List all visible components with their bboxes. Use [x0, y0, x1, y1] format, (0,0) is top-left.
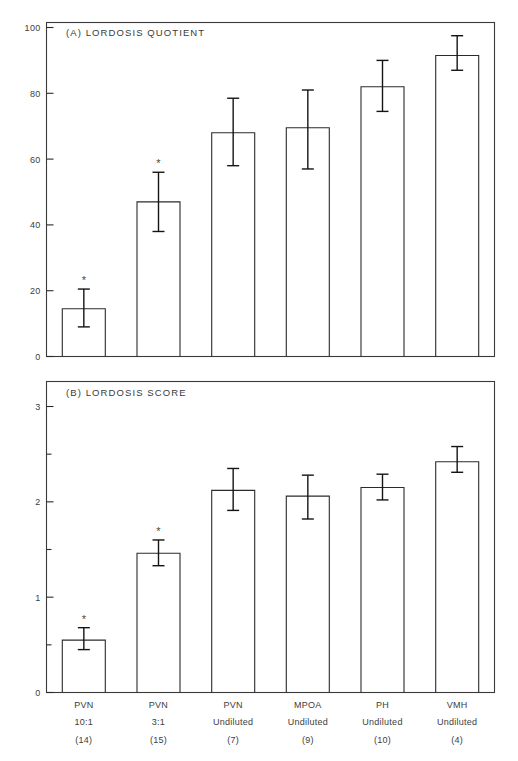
y-tick-label: 1: [35, 593, 40, 603]
x-label-site: MPOA: [294, 700, 322, 710]
significance-marker: *: [156, 157, 161, 169]
y-tick-label: 40: [30, 220, 41, 230]
x-label-n: (15): [150, 735, 167, 745]
x-label-site: PH: [376, 700, 389, 710]
panel-a-yaxis: 020406080100: [25, 23, 54, 362]
x-label-dilution: Undiluted: [437, 717, 477, 727]
x-label-site: VMH: [447, 700, 468, 710]
x-label-site: PVN: [149, 700, 168, 710]
significance-marker: *: [82, 274, 87, 286]
bar: [286, 496, 329, 692]
panel-b: (B) LORDOSIS SCORE 0123 **: [35, 382, 494, 698]
y-tick-label: 20: [30, 286, 41, 296]
x-axis-labels: PVN10:1(14)PVN3:1(15)PVNUndiluted(7)MPOA…: [74, 700, 477, 745]
y-tick-label: 0: [35, 688, 40, 698]
panel-a-bars: **: [62, 36, 478, 357]
significance-marker: *: [156, 525, 161, 537]
x-label-site: PVN: [74, 700, 93, 710]
x-label-n: (10): [374, 735, 391, 745]
bar: [436, 462, 479, 693]
bar: [137, 553, 180, 692]
x-label-site: PVN: [224, 700, 243, 710]
x-label-n: (9): [302, 735, 314, 745]
panel-a-title: (A) LORDOSIS QUOTIENT: [66, 27, 205, 38]
two-panel-bar-figure: (A) LORDOSIS QUOTIENT 020406080100 ** (B…: [0, 0, 518, 761]
x-label-n: (4): [451, 735, 463, 745]
bar: [436, 56, 479, 357]
y-tick-label: 2: [35, 497, 40, 507]
panel-b-bars: **: [62, 447, 478, 693]
x-label-dilution: Undiluted: [288, 717, 328, 727]
y-tick-label: 80: [30, 89, 41, 99]
panel-a: (A) LORDOSIS QUOTIENT 020406080100 **: [25, 23, 495, 362]
panel-b-yaxis: 0123: [35, 402, 53, 698]
bar: [361, 87, 404, 357]
x-label-dilution: 10:1: [75, 717, 94, 727]
x-label-dilution: Undiluted: [362, 717, 402, 727]
y-tick-label: 100: [25, 23, 41, 33]
x-label-dilution: Undiluted: [213, 717, 253, 727]
bar: [361, 488, 404, 693]
x-label-dilution: 3:1: [152, 717, 165, 727]
bar: [212, 490, 255, 692]
y-tick-label: 0: [35, 352, 40, 362]
panel-a-frame: [47, 23, 495, 357]
x-label-n: (14): [75, 735, 92, 745]
y-tick-label: 3: [35, 402, 40, 412]
figure-container: (A) LORDOSIS QUOTIENT 020406080100 ** (B…: [0, 0, 518, 761]
panel-b-title: (B) LORDOSIS SCORE: [66, 387, 187, 398]
significance-marker: *: [82, 613, 87, 625]
y-tick-label: 60: [30, 155, 41, 165]
panel-b-frame: [47, 382, 495, 693]
x-label-n: (7): [227, 735, 239, 745]
